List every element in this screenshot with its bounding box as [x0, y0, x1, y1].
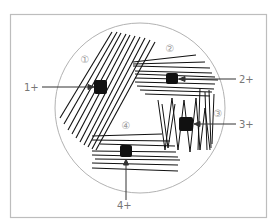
streak-plate-diagram: ① ② ③ ④ 1+ 2+ 3+ 4+ — [0, 0, 274, 224]
growth-label-4: 4+ — [117, 200, 132, 211]
colony-1 — [94, 80, 107, 94]
quadrant-4-label: ④ — [122, 120, 131, 131]
quadrant-3-label: ③ — [214, 108, 223, 119]
quadrant-2-label: ② — [166, 43, 175, 54]
growth-label-2: 2+ — [239, 74, 254, 85]
growth-label-3: 3+ — [239, 119, 254, 130]
quadrant-1-label: ① — [81, 54, 90, 65]
growth-label-1: 1+ — [24, 82, 39, 93]
diagram-frame — [11, 15, 267, 218]
colony-4 — [120, 145, 132, 157]
colony-3 — [179, 117, 193, 131]
colony-2 — [166, 73, 178, 84]
